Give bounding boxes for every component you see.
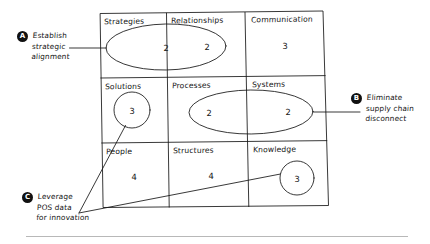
annotation-a-line-2: strategic: [32, 42, 71, 53]
annotation-c: Leverage POS data for innovation: [36, 192, 91, 224]
cell-label-communication: Communication: [251, 15, 313, 25]
annotation-c-line-1: Leverage: [37, 192, 91, 203]
annotation-badge-a: A: [17, 31, 28, 42]
cell-label-systems: Systems: [252, 80, 286, 89]
cell-value-systems: 2: [280, 107, 296, 117]
annotation-b-line-1: Eliminate: [366, 93, 415, 104]
cell-label-solutions: Solutions: [105, 82, 142, 91]
annotation-a-line-1: Establish: [32, 31, 71, 42]
cell-value-structures: 4: [203, 171, 219, 181]
annotation-a-line-3: alignment: [31, 52, 70, 63]
matrix-row-divider-2: [102, 141, 327, 143]
annotation-c-line-2: POS data: [37, 203, 91, 214]
annotation-b-line-3: disconnect: [365, 114, 414, 125]
cell-value-strategies: 2: [158, 43, 174, 53]
annotation-badge-c: C: [22, 192, 33, 203]
annotation-c-line-3: for innovation: [36, 213, 90, 224]
annotation-b: Eliminate supply chain disconnect: [365, 93, 415, 125]
annotation-badge-b: B: [351, 93, 362, 104]
cell-value-communication: 3: [277, 41, 293, 51]
cell-value-people: 4: [126, 172, 142, 182]
cell-label-relationships: Relationships: [171, 16, 224, 26]
cell-label-structures: Structures: [173, 146, 214, 155]
footer-rule: [26, 236, 408, 237]
cell-label-processes: Processes: [172, 81, 211, 90]
annotation-a: Establish strategic alignment: [31, 31, 71, 63]
cell-label-knowledge: Knowledge: [253, 145, 296, 155]
cell-value-relationships: 2: [199, 42, 215, 52]
matrix-col-divider-2: [245, 12, 249, 206]
matrix-row-divider-1: [101, 76, 325, 78]
cell-value-knowledge: 3: [289, 174, 305, 184]
matrix-diagram: Strategies 2 Relationships 2 Communicati…: [0, 0, 430, 244]
cell-label-strategies: Strategies: [104, 17, 145, 26]
cell-label-people: People: [106, 147, 133, 156]
annotation-b-line-2: supply chain: [366, 104, 415, 115]
cell-value-solutions: 3: [124, 106, 140, 116]
cell-value-processes: 2: [201, 108, 217, 118]
